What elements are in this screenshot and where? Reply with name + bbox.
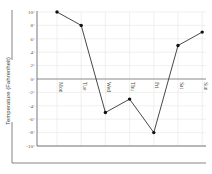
temperature-line-chart: 10°8°6°4°2°0°-2°-4°-6°-8°-10° MonTueWedT…: [0, 0, 212, 174]
y-axis-label: Temperature (Fahrenheit): [3, 57, 13, 125]
y-axis-title: Temperature (Fahrenheit): [5, 57, 11, 125]
x-category-label: Sat: [179, 82, 185, 90]
x-category-label: Wed: [106, 82, 112, 92]
y-tick-label: 2°: [31, 63, 36, 68]
y-tick-label: -10°: [26, 144, 35, 149]
y-tick-label: 4°: [31, 50, 36, 55]
y-axis-ticks: 10°8°6°4°2°0°-2°-4°-6°-8°-10°: [26, 10, 35, 149]
y-tick-label: 6°: [31, 37, 36, 42]
x-category-label: Sun: [203, 82, 209, 91]
x-category-label: Thu: [130, 82, 136, 91]
x-category-label: Mon: [58, 82, 64, 93]
data-point: [80, 24, 83, 27]
data-point: [104, 111, 107, 114]
data-point: [201, 30, 204, 33]
x-axis-categories: MonTueWedThuFriSatSun: [58, 82, 209, 93]
y-tick-label: 10°: [28, 10, 35, 15]
data-point: [128, 97, 131, 100]
data-point: [152, 131, 155, 134]
data-point: [55, 10, 58, 13]
x-category-label: Fri: [154, 82, 160, 89]
y-tick-label: -2°: [29, 90, 35, 95]
y-tick-label: -4°: [29, 104, 35, 109]
x-category-label: Tue: [82, 82, 88, 91]
y-tick-label: 0°: [31, 77, 36, 82]
y-tick-label: 8°: [31, 23, 36, 28]
y-tick-label: -6°: [29, 117, 35, 122]
y-tick-label: -8°: [29, 130, 35, 135]
data-point: [176, 44, 179, 47]
